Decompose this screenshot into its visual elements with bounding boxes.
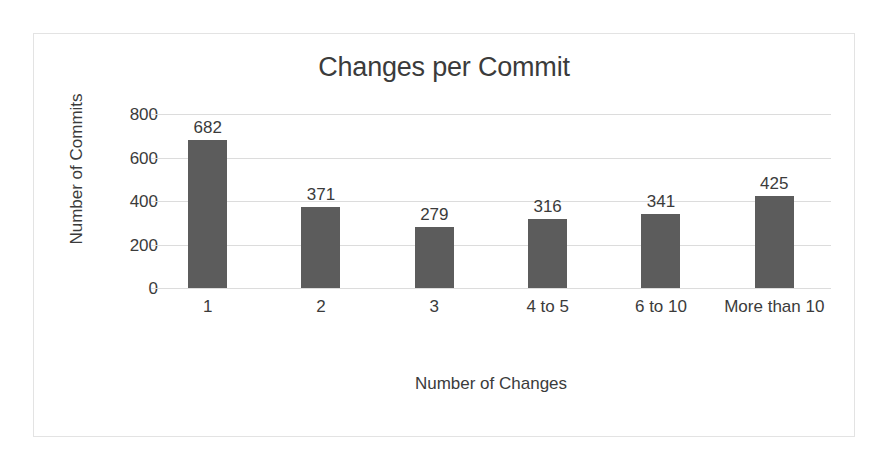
bar[interactable]: 341	[641, 214, 680, 288]
bar-slot: 682	[151, 114, 264, 288]
x-axis-tick: 3	[378, 296, 491, 317]
bar[interactable]: 682	[188, 140, 227, 288]
bar-value-label: 279	[420, 206, 448, 223]
bar[interactable]: 279	[415, 227, 454, 288]
chart-title: Changes per Commit	[34, 54, 854, 81]
bar-value-label: 425	[760, 175, 788, 192]
x-axis-tick: 4 to 5	[491, 296, 604, 317]
bar-value-label: 371	[307, 186, 335, 203]
bar-value-label: 341	[647, 193, 675, 210]
bar-value-label: 682	[193, 119, 221, 136]
bar-slot: 371	[264, 114, 377, 288]
bar-value-label: 316	[533, 198, 561, 215]
bar-slot: 341	[604, 114, 717, 288]
chart-container: Changes per Commit Number of Commits 020…	[33, 33, 855, 437]
bar[interactable]: 371	[301, 207, 340, 288]
plot-area: 682371279316341425	[151, 114, 831, 288]
x-axis-tick: 6 to 10	[604, 296, 717, 317]
x-axis-title: Number of Changes	[151, 374, 831, 394]
gridline	[151, 288, 831, 289]
bar-slot: 425	[718, 114, 831, 288]
bar-slot: 316	[491, 114, 604, 288]
bar-series: 682371279316341425	[151, 114, 831, 288]
x-axis-tick: 2	[264, 296, 377, 317]
y-axis-title: Number of Commits	[67, 69, 87, 269]
bar[interactable]: 425	[755, 196, 794, 288]
x-axis-tick: More than 10	[718, 296, 831, 317]
bar[interactable]: 316	[528, 219, 567, 288]
x-axis-tick: 1	[151, 296, 264, 317]
bar-slot: 279	[378, 114, 491, 288]
x-axis-tick-labels: 1234 to 56 to 10More than 10	[151, 296, 831, 317]
